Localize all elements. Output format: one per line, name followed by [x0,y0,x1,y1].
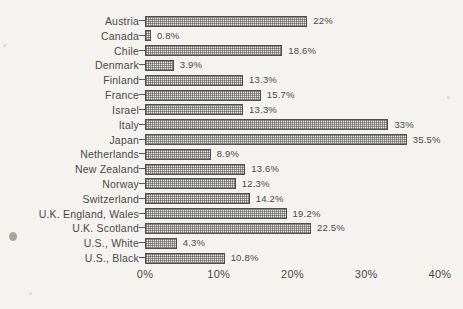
category-label: Canada [101,29,139,43]
bar-row: Netherlands8.9% [0,147,463,162]
category-label: Switzerland [83,192,139,206]
category-label: U.K. Scotland [72,221,139,235]
bar-fill [145,238,177,249]
bar-chart: Austria22%Canada0.8%Chile18.6%Denmark3.9… [0,0,463,309]
bar [145,90,261,101]
category-label: U.S., White [84,236,139,250]
category-label: Norway [102,177,139,191]
bar-row: Finland13.3% [0,73,463,88]
plot-area: Austria22%Canada0.8%Chile18.6%Denmark3.9… [0,14,463,266]
bar-fill [145,253,225,264]
bar [145,149,211,160]
category-label: Denmark [95,58,139,72]
category-label: France [105,88,139,102]
bar-row: New Zealand13.6% [0,162,463,177]
bar-fill [145,119,388,130]
bar-fill [145,134,407,145]
category-label: New Zealand [75,162,139,176]
bar-fill [145,75,243,86]
bar-value-label: 15.7% [267,88,295,102]
bar-row: Italy33% [0,118,463,133]
bar [145,223,311,234]
bar [145,164,245,175]
bar [145,75,243,86]
bar [145,193,250,204]
bar-value-label: 22% [313,14,333,28]
bar-fill [145,208,287,219]
bar-fill [145,178,236,189]
bar [145,30,151,41]
bar-value-label: 10.8% [231,251,259,265]
bar-fill [145,223,311,234]
bar-row: France15.7% [0,88,463,103]
category-label: Netherlands [80,147,139,161]
bar-value-label: 18.6% [288,44,316,58]
bar [145,104,243,115]
bar [145,134,407,145]
x-axis-tick-label: 10% [207,268,230,280]
x-axis-tick-label: 40% [429,268,452,280]
bar-fill [145,149,211,160]
bar-value-label: 22.5% [317,221,345,235]
bar-row: Denmark3.9% [0,58,463,73]
bar-fill [145,16,307,27]
bar [145,208,287,219]
bar [145,60,174,71]
bar-value-label: 12.3% [242,177,270,191]
scan-artifact [29,292,32,295]
category-label: U.S., Black [85,251,139,265]
bar-row: U.S., Black10.8% [0,251,463,266]
bar-row: Austria22% [0,14,463,29]
bar-row: Japan35.5% [0,133,463,148]
bar-row: U.S., White4.3% [0,236,463,251]
x-axis-tick-label: 20% [281,268,304,280]
bar [145,253,225,264]
category-label: Austria [105,14,139,28]
bar-fill [145,30,151,41]
bar-value-label: 8.9% [217,147,239,161]
bar-value-label: 35.5% [413,133,441,147]
category-label: Japan [109,133,139,147]
bar-value-label: 33% [394,118,414,132]
x-axis: 0%10%20%30%40% [0,268,463,292]
bar [145,119,388,130]
bar-fill [145,193,250,204]
bar-value-label: 13.3% [249,73,277,87]
bar-row: Israel13.3% [0,103,463,118]
bar-value-label: 14.2% [256,192,284,206]
bar [145,238,177,249]
bar-fill [145,45,282,56]
category-label: Chile [114,44,139,58]
bar [145,16,307,27]
bar-fill [145,104,243,115]
bar-row: Switzerland14.2% [0,192,463,207]
bar [145,45,282,56]
bar-fill [145,90,261,101]
bar-value-label: 3.9% [180,58,202,72]
bar-value-label: 13.3% [249,103,277,117]
category-label: Finland [103,73,139,87]
bar-fill [145,60,174,71]
bar-value-label: 13.6% [251,162,279,176]
category-label: Israel [112,103,139,117]
x-axis-tick-label: 30% [355,268,378,280]
bar-row: U.K. Scotland22.5% [0,221,463,236]
bar-value-label: 4.3% [183,236,205,250]
bar-row: U.K. England, Wales19.2% [0,207,463,222]
bar-row: Norway12.3% [0,177,463,192]
category-label: U.K. England, Wales [39,207,139,221]
bar-row: Chile18.6% [0,44,463,59]
bar-value-label: 0.8% [157,29,179,43]
bar-row: Canada0.8% [0,29,463,44]
category-label: Italy [119,118,139,132]
bar-value-label: 19.2% [293,207,321,221]
bar-fill [145,164,245,175]
x-axis-tick-label: 0% [137,268,154,280]
bar [145,178,236,189]
